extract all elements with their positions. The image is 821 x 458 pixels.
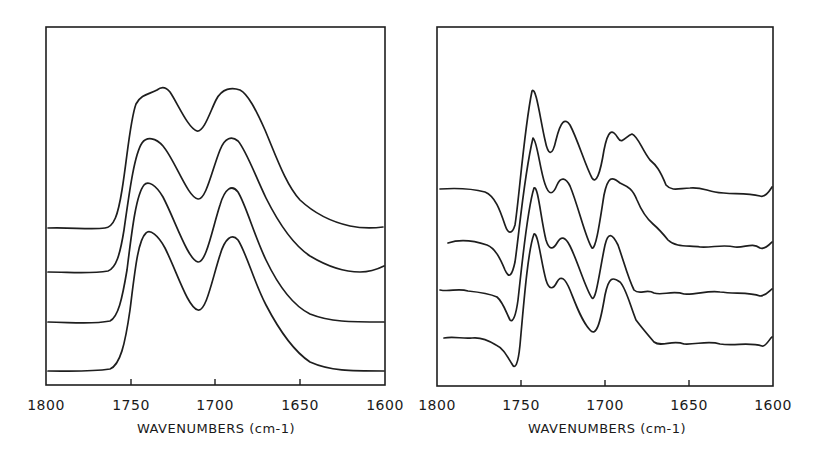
right-spectrum-plot: 1800 1750 1700 1650 1600 WAVENUMBERS (cm…: [410, 0, 821, 458]
right-plot-frame: [437, 27, 773, 386]
right-trace-4: [444, 234, 772, 366]
left-tick-label: 1650: [281, 397, 319, 413]
right-tick-label: 1800: [418, 397, 456, 413]
right-x-axis-title: WAVENUMBERS (cm-1): [528, 421, 686, 436]
left-trace-4: [48, 232, 384, 371]
left-tick-label: 1600: [366, 397, 404, 413]
left-spectrum-plot: 1800 1750 1700 1650 1600 WAVENUMBERS (cm…: [0, 0, 410, 458]
right-trace-2: [448, 138, 772, 275]
right-tick-label: 1750: [502, 397, 540, 413]
right-tick-label: 1600: [754, 397, 792, 413]
left-tick-label: 1700: [196, 397, 234, 413]
left-tick-label: 1800: [27, 397, 65, 413]
right-tick-label: 1700: [586, 397, 624, 413]
left-trace-2: [48, 138, 384, 272]
left-x-axis-title: WAVENUMBERS (cm-1): [137, 421, 295, 436]
right-trace-3: [440, 188, 772, 321]
left-trace-3: [48, 183, 384, 323]
right-tick-label: 1650: [670, 397, 708, 413]
left-plot-frame: [46, 27, 385, 385]
right-x-ticks: [521, 380, 689, 386]
left-spectrum-panel: 1800 1750 1700 1650 1600 WAVENUMBERS (cm…: [0, 0, 410, 458]
right-trace-1: [440, 90, 772, 232]
left-tick-label: 1750: [112, 397, 150, 413]
left-trace-1: [48, 88, 383, 229]
right-spectrum-panel: 1800 1750 1700 1650 1600 WAVENUMBERS (cm…: [410, 0, 821, 458]
left-x-ticks: [131, 379, 300, 385]
